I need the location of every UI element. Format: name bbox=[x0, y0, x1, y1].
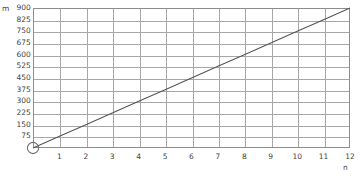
x-axis-tick-label: 3 bbox=[102, 153, 122, 161]
gridline-horizontal bbox=[34, 21, 349, 22]
x-axis-tick-label: 4 bbox=[129, 153, 149, 161]
y-axis-tick-label: 825 bbox=[0, 16, 31, 24]
gridline-vertical bbox=[325, 9, 326, 147]
gridline-vertical bbox=[219, 9, 220, 147]
gridline-vertical bbox=[87, 9, 88, 147]
x-axis-tick-label: 6 bbox=[182, 153, 202, 161]
gridline-horizontal bbox=[34, 114, 349, 115]
gridline-horizontal bbox=[34, 44, 349, 45]
y-axis-tick-label: 300 bbox=[0, 97, 31, 105]
gridline-horizontal bbox=[34, 91, 349, 92]
y-axis-tick-label: 900 bbox=[0, 4, 31, 12]
y-axis-tick-label: 75 bbox=[0, 132, 31, 140]
gridline-vertical bbox=[140, 9, 141, 147]
gridline-vertical bbox=[245, 9, 246, 147]
y-axis-tick-label: 600 bbox=[0, 51, 31, 59]
gridline-horizontal bbox=[34, 102, 349, 103]
y-axis-tick-label: 375 bbox=[0, 86, 31, 94]
gridline-horizontal bbox=[34, 79, 349, 80]
y-axis-tick-label: 750 bbox=[0, 27, 31, 35]
y-axis-tick-label: 675 bbox=[0, 39, 31, 47]
x-axis-tick-label: 2 bbox=[76, 153, 96, 161]
x-axis-tick-label: 12 bbox=[340, 153, 360, 161]
gridline-horizontal bbox=[34, 32, 349, 33]
plot-area bbox=[33, 8, 350, 148]
y-axis-tick-label: 150 bbox=[0, 121, 31, 129]
y-axis-tick-label: 450 bbox=[0, 74, 31, 82]
y-axis-tick-label: 525 bbox=[0, 62, 31, 70]
x-axis-tick-label: 5 bbox=[155, 153, 175, 161]
gridline-horizontal bbox=[34, 56, 349, 57]
x-axis-tick-label: 1 bbox=[49, 153, 69, 161]
gridline-horizontal bbox=[34, 126, 349, 127]
line-chart: m 75150225300375450525600675750825900 12… bbox=[0, 0, 360, 179]
gridline-vertical bbox=[166, 9, 167, 147]
x-axis-tick-label: 9 bbox=[261, 153, 281, 161]
gridline-vertical bbox=[193, 9, 194, 147]
x-axis-tick-label: 10 bbox=[287, 153, 307, 161]
gridline-vertical bbox=[60, 9, 61, 147]
x-axis-title: n bbox=[343, 164, 348, 172]
gridline-vertical bbox=[113, 9, 114, 147]
gridline-vertical bbox=[298, 9, 299, 147]
y-axis-tick-label: 225 bbox=[0, 109, 31, 117]
x-axis-tick-label: 8 bbox=[234, 153, 254, 161]
gridline-horizontal bbox=[34, 67, 349, 68]
gridline-vertical bbox=[272, 9, 273, 147]
gridline-horizontal bbox=[34, 137, 349, 138]
x-axis-tick-label: 7 bbox=[208, 153, 228, 161]
x-axis-tick-label: 11 bbox=[314, 153, 334, 161]
